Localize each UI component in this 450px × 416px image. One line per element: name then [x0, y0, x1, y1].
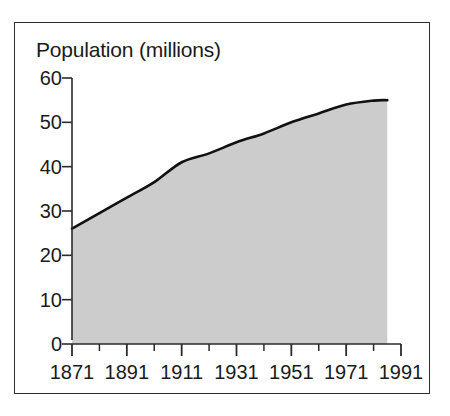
x-axis-tick-labels: 1871189119111931195119711991: [0, 0, 450, 416]
x-tick-label: 1971: [324, 362, 369, 382]
x-tick-label: 1951: [269, 362, 314, 382]
x-tick-label: 1991: [379, 362, 424, 382]
x-tick-label: 1931: [214, 362, 259, 382]
x-tick-label: 1911: [160, 362, 203, 382]
x-tick-label: 1891: [105, 362, 150, 382]
x-tick-label: 1871: [50, 362, 95, 382]
chart-figure: Population (millions) 0102030405060 1871…: [0, 0, 450, 416]
